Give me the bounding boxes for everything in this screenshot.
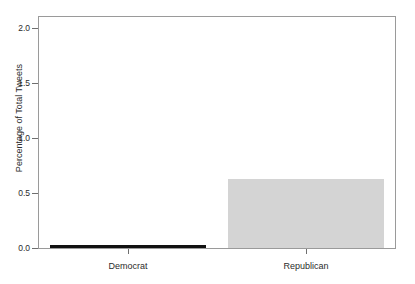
x-axis-tick-label: Republican [246, 261, 366, 271]
y-axis-tick-label: 0.0 [0, 244, 30, 253]
bar-democrat [50, 245, 206, 248]
y-axis-tick-mark [32, 83, 38, 84]
x-axis-tick-mark [306, 249, 307, 254]
plot-area [39, 17, 395, 248]
x-axis-tick-mark [128, 249, 129, 254]
y-axis-tick-label: 0.5 [0, 189, 30, 198]
y-axis-tick-mark [32, 28, 38, 29]
bar-chart-figure: 0.00.51.01.52.0 Percentage of Total Twee… [0, 0, 415, 284]
x-axis-tick-label: Democrat [68, 261, 188, 271]
y-axis-tick-mark [32, 138, 38, 139]
y-axis-tick-mark [32, 248, 38, 249]
y-axis-tick-label: 2.0 [0, 24, 30, 33]
bar-republican [228, 179, 384, 248]
y-axis-tick-mark [32, 193, 38, 194]
y-axis-title: Percentage of Total Tweets [14, 48, 24, 188]
